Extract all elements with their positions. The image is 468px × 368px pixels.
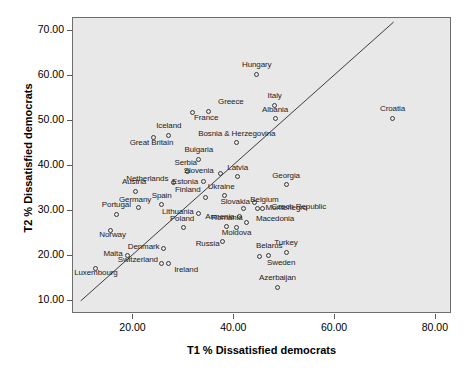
x-tick-mark <box>435 314 436 319</box>
x-tick-label: 40.00 <box>220 322 246 333</box>
x-tick-mark <box>233 314 234 319</box>
x-tick-label: 20.00 <box>119 322 145 333</box>
x-axis-ticks: 20.0040.0060.0080.00 <box>0 0 468 368</box>
x-tick-mark <box>334 314 335 319</box>
x-axis-title: T1 % Dissatisfied democrats <box>72 344 451 356</box>
scatter-plot-figure: T2 % Dissatisfied democrats 10.0020.0030… <box>0 0 468 368</box>
x-tick-mark <box>132 314 133 319</box>
x-tick-label: 60.00 <box>321 322 347 333</box>
x-tick-label: 80.00 <box>422 322 448 333</box>
